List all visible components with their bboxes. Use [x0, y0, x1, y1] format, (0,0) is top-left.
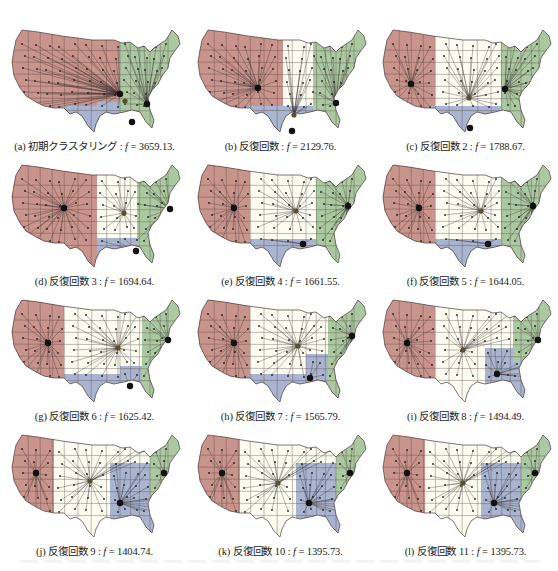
region-northeast [150, 423, 187, 497]
caption-period: . [172, 141, 175, 152]
caption-period: . [340, 546, 343, 557]
us-cluster-map [373, 153, 558, 271]
caption-separator: : [285, 546, 293, 557]
map-panel: (j) 反復回数 9 : f = 1404.74. [2, 423, 187, 558]
map-panel: (d) 反復回数 3 : f = 1694.64. [2, 153, 187, 288]
map-panel: (e) 反復回数 4 : f = 1661.55. [188, 153, 373, 288]
cluster-centroid-marker [293, 208, 298, 213]
us-cluster-map [373, 423, 558, 541]
caption-equals: = [107, 411, 118, 422]
map-panel: (c) 反復回数 2 : f = 1788.67. [373, 18, 558, 153]
cluster-centroid-marker [289, 128, 295, 134]
region-northeast [137, 153, 187, 271]
cluster-centroid-marker [408, 81, 414, 87]
cluster-centroid-marker [45, 340, 51, 346]
us-cluster-map [188, 153, 373, 271]
caption-separator: : [279, 141, 287, 152]
cluster-centroid-marker [117, 91, 123, 97]
region-southeast [97, 102, 120, 136]
region-northeast [336, 423, 373, 497]
cluster-centroid-marker [349, 333, 355, 339]
map-panel: (f) 反復回数 5 : f = 1644.05. [373, 153, 558, 288]
caption-label: (d) 反復回数 3 [35, 276, 97, 287]
cluster-centroid-marker [295, 343, 300, 348]
region-northeast [328, 288, 373, 406]
caption-label: (e) 反復回数 4 [221, 276, 282, 287]
cluster-centroid-marker [33, 470, 39, 476]
caption-label: (f) 反復回数 5 [407, 276, 467, 287]
region-northeast [513, 288, 558, 362]
caption-separator: : [282, 276, 290, 287]
cluster-centroid-marker [416, 205, 422, 211]
us-cluster-map [188, 288, 373, 406]
panel-caption: (h) 反復回数 7 : f = 1565.79. [188, 408, 373, 423]
us-cluster-map [188, 18, 373, 136]
caption-equals: = [477, 276, 488, 287]
cluster-centroid-marker [478, 208, 483, 213]
caption-equals: = [128, 141, 139, 152]
caption-equals: = [480, 546, 491, 557]
cluster-centroid-marker [404, 470, 410, 476]
map-panel: (a) 初期クラスタリング : f = 3659.13. [2, 18, 187, 153]
objective-value: 1395.73 [307, 546, 340, 557]
figure-grid: (a) 初期クラスタリング : f = 3659.13.(b) 反復回数 : f… [0, 0, 558, 571]
us-cluster-map [2, 153, 187, 271]
panel-caption: (g) 反復回数 6 : f = 1625.42. [2, 408, 187, 423]
caption-label: (b) 反復回数 [225, 141, 279, 152]
caption-equals: = [293, 276, 304, 287]
cluster-centroid-marker [117, 500, 123, 506]
objective-value: 1694.64 [118, 276, 151, 287]
map-panel: (h) 反復回数 7 : f = 1565.79. [188, 288, 373, 423]
cluster-centroid-marker [231, 340, 237, 346]
cluster-centroid-marker [467, 125, 473, 131]
objective-value: 1494.49 [488, 411, 521, 422]
cluster-centroid-marker [121, 210, 126, 215]
region-northeast [521, 423, 558, 497]
us-cluster-map [373, 18, 558, 136]
us-cluster-map [188, 423, 373, 541]
region-northeast [501, 18, 558, 136]
cluster-centroid-marker [167, 206, 173, 212]
cluster-centroid-marker [61, 205, 67, 211]
caption-equals: = [107, 276, 118, 287]
panel-caption: (f) 反復回数 5 : f = 1644.05. [373, 273, 558, 288]
caption-period: . [337, 276, 340, 287]
caption-equals: = [478, 141, 489, 152]
caption-period: . [334, 141, 337, 152]
region-southeast [435, 113, 521, 136]
caption-separator: : [467, 276, 475, 287]
cluster-centroid-marker [165, 337, 171, 343]
caption-label: (c) 反復回数 2 [406, 141, 467, 152]
cluster-centroid-marker [307, 375, 313, 381]
cluster-centroid-marker [347, 470, 353, 476]
objective-value: 1644.05 [488, 276, 521, 287]
us-cluster-map [2, 18, 187, 136]
caption-label: (j) 反復回数 9 [36, 546, 95, 557]
caption-period: . [152, 276, 155, 287]
caption-label: (i) 反復回数 8 [407, 411, 466, 422]
caption-equals: = [289, 141, 300, 152]
caption-period: . [522, 276, 525, 287]
caption-equals: = [293, 411, 304, 422]
cluster-centroid-marker [535, 337, 541, 343]
cluster-centroid-marker [133, 248, 139, 254]
cluster-centroid-marker [345, 203, 351, 209]
region-west [188, 288, 250, 406]
cluster-centroid-marker [466, 95, 471, 100]
caption-equals: = [106, 546, 117, 557]
panel-caption: (c) 反復回数 2 : f = 1788.67. [373, 138, 558, 153]
panel-caption: (k) 反復回数 10 : f = 1395.73. [188, 543, 373, 558]
objective-value: 1625.42 [118, 411, 151, 422]
region-west [188, 153, 250, 271]
cluster-centroid-marker [161, 470, 167, 476]
cluster-centroid-marker [485, 241, 491, 247]
map-panel: (b) 反復回数 : f = 2129.76. [188, 18, 373, 153]
caption-period: . [150, 546, 153, 557]
region-west [373, 153, 435, 271]
cluster-centroid-marker [532, 470, 538, 476]
objective-value: 3659.13 [139, 141, 172, 152]
cluster-centroid-marker [275, 480, 280, 485]
cluster-centroid-marker [219, 470, 225, 476]
region-west [2, 288, 64, 406]
objective-value: 1395.73 [490, 546, 523, 557]
